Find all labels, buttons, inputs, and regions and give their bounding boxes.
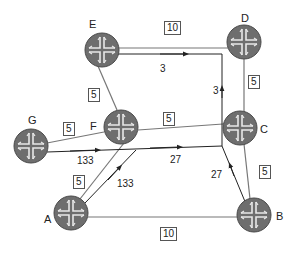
link-a-f [80,143,124,199]
router-d-icon [227,25,261,59]
arrow-b [230,165,234,176]
node-label-a: A [44,214,51,225]
node-label-c: C [260,124,268,135]
flow-label-merged: 27 [170,155,181,165]
router-e-icon [85,33,119,67]
link-c-b [244,144,250,199]
router-f-icon [104,110,138,144]
link-g-f [47,132,104,143]
node-label-g: G [28,115,37,126]
flow-label-top: 3 [160,64,166,74]
link-f-c [138,124,223,130]
router-g-icon [14,129,48,163]
node-label-f: F [90,121,97,132]
metric-c-b: 5 [259,165,271,179]
node-label-e: E [89,19,96,30]
node-label-b: B [276,211,283,222]
metric-g-f: 5 [63,122,75,136]
node-label-d: D [241,13,249,24]
metric-e-f: 5 [88,88,100,102]
flow-label-a: 133 [117,179,134,189]
flow-label-up: 3 [213,86,219,96]
router-b-icon [237,198,271,232]
metric-a-f: 5 [73,175,85,189]
links [47,48,250,217]
metric-d-c: 5 [248,75,260,89]
link-e-f [98,66,117,110]
flow-label-g: 133 [77,156,94,166]
router-a-icon [54,196,88,230]
flow-label-b: 27 [211,170,222,180]
metric-e-d: 10 [164,21,181,35]
router-c-icon [223,111,257,145]
metric-f-c: 5 [163,112,175,126]
metric-a-b: 10 [160,227,177,241]
